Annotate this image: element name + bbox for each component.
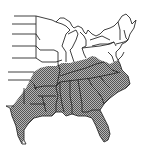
range-map bbox=[0, 0, 147, 159]
shaded-range-area bbox=[10, 56, 130, 144]
us-east-map-svg bbox=[0, 0, 147, 159]
